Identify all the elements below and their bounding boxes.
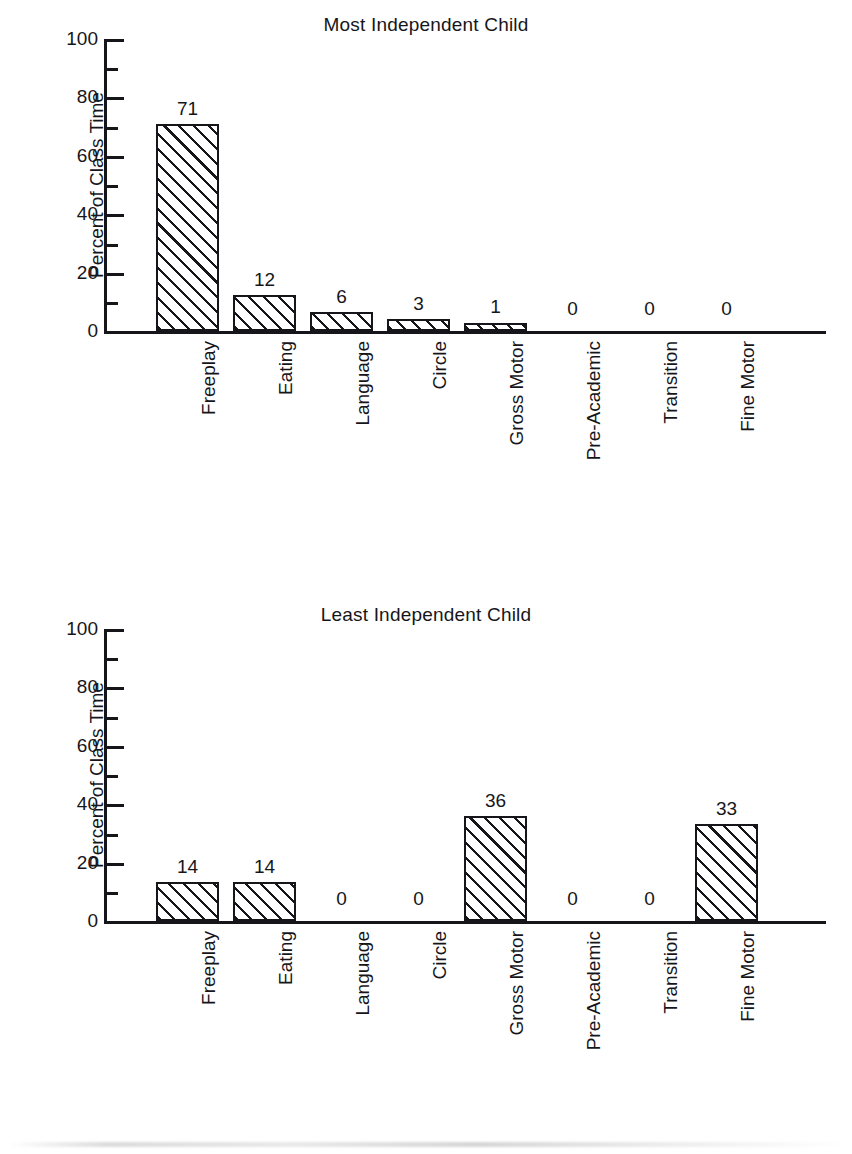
chart-title-least: Least Independent Child [0,604,852,626]
bar-slot-pre-academic[interactable]: 0 Pre-Academic [541,629,604,921]
bar-slot-pre-academic[interactable]: 0 Pre-Academic [541,39,604,331]
bar-value-label: 33 [716,798,737,820]
y-tick-label: 20 [77,852,98,874]
bar-slot-fine-motor[interactable]: 0 Fine Motor [695,39,758,331]
bar-value-label: 0 [644,298,655,320]
bar-slot-fine-motor[interactable]: 33 Fine Motor [695,629,758,921]
bar-gross-motor[interactable] [464,323,527,331]
bar-series-least: 14 Freeplay 14 Eating 0 Language 0 Circl [104,629,826,921]
bar-slot-eating[interactable]: 14 Eating [233,629,296,921]
chart-panel-least-independent: Least Independent Child Percent of Class… [0,592,852,1152]
x-category-label-gross-motor: Gross Motor [506,931,528,1036]
x-category-label-fine-motor: Fine Motor [737,341,759,432]
bar-value-label: 0 [567,888,578,910]
bar-value-label: 12 [254,269,275,291]
bar-circle[interactable] [387,319,450,331]
bar-value-label: 1 [490,296,501,318]
x-category-label-transition: Transition [660,341,682,424]
y-tick-label: 80 [77,676,98,698]
bar-fine-motor[interactable] [695,824,758,921]
x-axis-line-most [104,331,826,334]
bar-slot-circle[interactable]: 3 Circle [387,39,450,331]
x-category-label-gross-motor: Gross Motor [506,341,528,446]
x-category-label-circle: Circle [429,931,451,980]
x-axis-line-least [104,921,826,924]
bar-value-label: 0 [336,888,347,910]
bar-slot-gross-motor[interactable]: 1 Gross Motor [464,39,527,331]
bar-value-label: 14 [254,856,275,878]
x-category-label-freeplay: Freeplay [198,341,220,415]
y-tick-label: 40 [77,793,98,815]
x-category-label-freeplay: Freeplay [198,931,220,1005]
y-tick-label: 20 [77,262,98,284]
x-category-label-fine-motor: Fine Motor [737,931,759,1022]
y-tick-label: 0 [87,910,98,932]
bar-freeplay[interactable] [156,882,219,921]
bar-value-label: 3 [413,293,424,315]
bar-language[interactable] [310,312,373,331]
y-tick-label: 80 [77,86,98,108]
bar-value-label: 71 [177,98,198,120]
y-tick-major: 0 [107,921,124,924]
bar-slot-gross-motor[interactable]: 36 Gross Motor [464,629,527,921]
y-tick-major: 0 [107,331,124,334]
y-tick-label: 40 [77,203,98,225]
bar-slot-transition[interactable]: 0 Transition [618,629,681,921]
bar-series-most: 71 Freeplay 12 Eating 6 Language 3 Circl [104,39,826,331]
x-category-label-pre-academic: Pre-Academic [583,931,605,1050]
bar-gross-motor[interactable] [464,816,527,921]
bar-slot-freeplay[interactable]: 71 Freeplay [156,39,219,331]
bar-value-label: 36 [485,790,506,812]
bar-eating[interactable] [233,882,296,921]
bar-slot-language[interactable]: 0 Language [310,629,373,921]
x-category-label-language: Language [352,341,374,426]
figure-two-bar-charts: Most Independent Child Percent of Class … [0,0,852,1154]
x-category-label-language: Language [352,931,374,1016]
bar-slot-circle[interactable]: 0 Circle [387,629,450,921]
y-tick-label: 100 [66,618,98,640]
y-tick-label: 100 [66,28,98,50]
x-category-label-transition: Transition [660,931,682,1014]
bar-slot-freeplay[interactable]: 14 Freeplay [156,629,219,921]
bar-slot-eating[interactable]: 12 Eating [233,39,296,331]
bar-value-label: 6 [336,286,347,308]
bar-value-label: 0 [644,888,655,910]
bar-slot-transition[interactable]: 0 Transition [618,39,681,331]
chart-panel-most-independent: Most Independent Child Percent of Class … [0,0,852,560]
x-category-label-pre-academic: Pre-Academic [583,341,605,460]
y-tick-label: 0 [87,320,98,342]
bar-value-label: 0 [413,888,424,910]
bar-value-label: 14 [177,856,198,878]
bar-value-label: 0 [567,298,578,320]
plot-area-most: Percent of Class Time 100 80 60 40 20 0 … [104,39,826,331]
bar-freeplay[interactable] [156,124,219,331]
plot-area-least: Percent of Class Time 100 80 60 40 20 0 … [104,629,826,921]
bar-eating[interactable] [233,295,296,331]
y-tick-label: 60 [77,735,98,757]
bar-value-label: 0 [721,298,732,320]
scan-artifact-smudge [8,1142,844,1147]
x-category-label-circle: Circle [429,341,451,390]
bar-slot-language[interactable]: 6 Language [310,39,373,331]
x-category-label-eating: Eating [275,931,297,985]
x-category-label-eating: Eating [275,341,297,395]
chart-title-most: Most Independent Child [0,14,852,36]
y-tick-label: 60 [77,145,98,167]
